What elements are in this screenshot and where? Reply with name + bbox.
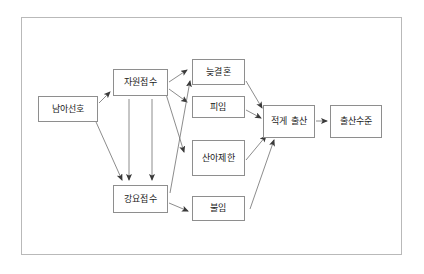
- node-label-contraception: 피임: [210, 102, 226, 111]
- node-voluntary-intake[interactable]: 자원접수: [113, 69, 168, 96]
- node-fewer-births[interactable]: 적게 출산: [263, 105, 315, 138]
- node-label-birth-control: 산아제한: [202, 153, 235, 162]
- node-son-preference[interactable]: 남아선호: [38, 96, 98, 122]
- diagram-canvas: 남아선호 자원접수 강요접수 늦결혼 피임 산아제한 불임 적게 출산 출산수준: [0, 0, 424, 274]
- node-label-fertility-level: 출산수준: [340, 117, 373, 126]
- node-contraception[interactable]: 피임: [192, 96, 245, 118]
- node-birth-control[interactable]: 산아제한: [192, 140, 245, 176]
- node-label-fewer-births: 적게 출산: [271, 117, 307, 126]
- node-fertility-level[interactable]: 출산수준: [330, 105, 382, 138]
- node-infertility[interactable]: 불임: [192, 196, 245, 221]
- node-label-voluntary-intake: 자원접수: [124, 78, 157, 87]
- node-label-forced-intake: 강요접수: [124, 194, 157, 203]
- node-label-son-preference: 남아선호: [52, 104, 85, 113]
- node-label-late-marriage: 늦결혼: [206, 67, 231, 76]
- node-label-infertility: 불임: [210, 204, 226, 213]
- node-forced-intake[interactable]: 강요접수: [113, 185, 168, 213]
- node-late-marriage[interactable]: 늦결혼: [192, 59, 245, 85]
